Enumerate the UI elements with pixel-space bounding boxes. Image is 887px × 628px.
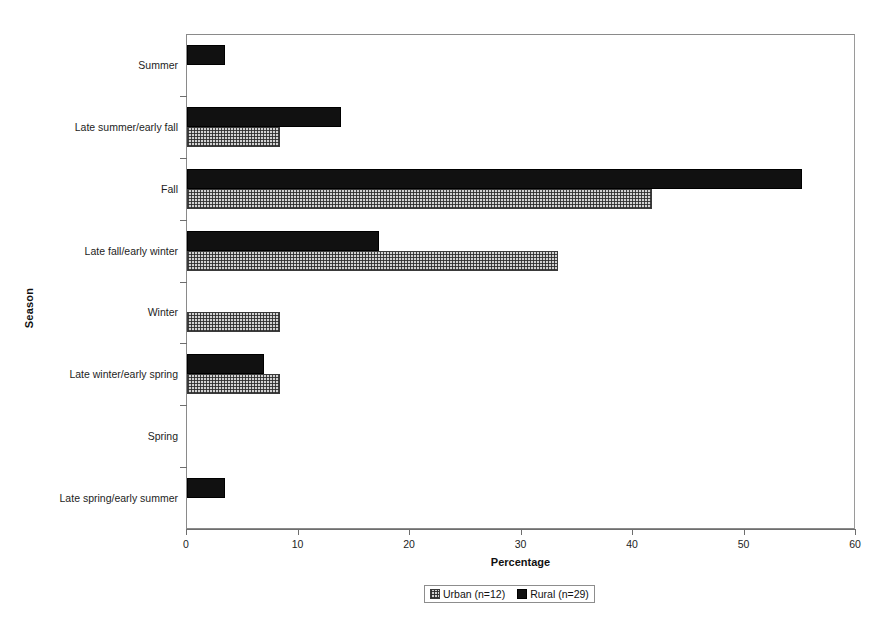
category-label: Spring bbox=[0, 430, 178, 442]
bar-rural bbox=[187, 45, 225, 65]
category-label: Late winter/early spring bbox=[0, 368, 178, 380]
bar-rural bbox=[187, 231, 379, 251]
legend-item: Urban (n=12) bbox=[430, 588, 505, 600]
bar-urban bbox=[187, 374, 280, 394]
category-row: Late spring/early summer bbox=[0, 467, 887, 529]
category-row: Summer bbox=[0, 34, 887, 96]
x-axis-tick bbox=[521, 529, 522, 535]
bar-rural bbox=[187, 354, 264, 374]
category-row: Fall bbox=[0, 158, 887, 220]
x-axis-title: Percentage bbox=[186, 556, 855, 568]
category-row: Late winter/early spring bbox=[0, 343, 887, 405]
bar-urban bbox=[187, 312, 280, 332]
category-label: Late spring/early summer bbox=[0, 492, 178, 504]
y-axis-tick bbox=[180, 158, 187, 159]
category-row: Late summer/early fall bbox=[0, 96, 887, 158]
urban-hatch-swatch-icon bbox=[430, 589, 440, 599]
x-axis-tick-label: 60 bbox=[835, 538, 875, 550]
x-axis-tick bbox=[632, 529, 633, 535]
bar-rural bbox=[187, 478, 225, 498]
category-label: Winter bbox=[0, 306, 178, 318]
bar-urban bbox=[187, 189, 652, 209]
x-axis-tick-label: 10 bbox=[278, 538, 318, 550]
x-axis-tick-label: 0 bbox=[166, 538, 206, 550]
y-axis-tick bbox=[180, 343, 187, 344]
category-row: Late fall/early winter bbox=[0, 220, 887, 282]
legend-item: Rural (n=29) bbox=[517, 588, 589, 600]
category-label: Fall bbox=[0, 183, 178, 195]
bar-rural bbox=[187, 107, 341, 127]
y-axis-tick bbox=[180, 220, 187, 221]
category-row: Winter bbox=[0, 282, 887, 344]
bar-chart: Season SummerLate summer/early fallFallL… bbox=[0, 0, 887, 628]
category-label: Late fall/early winter bbox=[0, 245, 178, 257]
rural-solid-swatch-icon bbox=[517, 589, 527, 599]
category-label: Summer bbox=[0, 59, 178, 71]
x-axis-tick bbox=[298, 529, 299, 535]
bar-urban bbox=[187, 251, 558, 271]
category-row: Spring bbox=[0, 405, 887, 467]
x-axis-tick bbox=[744, 529, 745, 535]
legend-label: Rural (n=29) bbox=[530, 588, 589, 600]
chart-legend: Urban (n=12)Rural (n=29) bbox=[424, 585, 595, 603]
x-axis-tick bbox=[186, 529, 187, 535]
x-axis-tick bbox=[409, 529, 410, 535]
x-axis-tick-label: 20 bbox=[389, 538, 429, 550]
legend-label: Urban (n=12) bbox=[443, 588, 505, 600]
y-axis-tick bbox=[180, 467, 187, 468]
y-axis-tick bbox=[180, 282, 187, 283]
y-axis-tick bbox=[180, 96, 187, 97]
category-label: Late summer/early fall bbox=[0, 121, 178, 133]
x-axis-tick-label: 50 bbox=[724, 538, 764, 550]
bar-urban bbox=[187, 127, 280, 147]
x-axis-tick-label: 30 bbox=[501, 538, 541, 550]
bar-rural bbox=[187, 169, 802, 189]
x-axis-tick-label: 40 bbox=[612, 538, 652, 550]
x-axis-tick bbox=[855, 529, 856, 535]
y-axis-tick bbox=[180, 405, 187, 406]
